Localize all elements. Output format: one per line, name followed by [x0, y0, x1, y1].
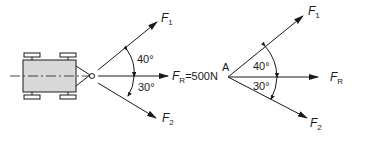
angle-label-lower: 30° [253, 80, 270, 92]
wheel [24, 53, 40, 57]
label-f2: F2 [310, 116, 322, 132]
vehicle [10, 53, 95, 99]
angle-arc-lower [128, 76, 134, 96]
label-fr: FR=500N [172, 69, 218, 85]
angle-label-upper: 40° [137, 53, 154, 65]
label-f2: F2 [162, 111, 174, 127]
label-f1: F1 [161, 11, 173, 27]
wheel [60, 53, 76, 57]
right-forces: A 40° 30° F1 FR F2 [222, 4, 343, 132]
wheel [24, 95, 40, 99]
force-diagram: 40° 30° F1 FR=500N F2 A 40° 30° F1 FR F2 [0, 0, 388, 148]
angle-arc-lower [271, 77, 277, 99]
point-a-label: A [222, 61, 230, 73]
angle-label-lower: 30° [138, 81, 155, 93]
wheel [60, 95, 76, 99]
angle-arc-upper [127, 50, 134, 76]
label-f1: F1 [308, 4, 320, 20]
hitch-point [90, 74, 95, 79]
label-fr: FR [330, 70, 343, 86]
left-forces: 40° 30° F1 FR=500N F2 [98, 11, 218, 127]
angle-label-upper: 40° [253, 60, 270, 72]
